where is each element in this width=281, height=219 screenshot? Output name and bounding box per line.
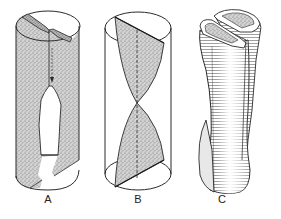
panel-b-cylinder (105, 12, 171, 190)
panel-label-c: C (212, 193, 232, 205)
panel-label-a: A (38, 193, 58, 205)
figure-three-cylinders: A B C (0, 0, 281, 219)
panel-label-b: B (128, 193, 148, 205)
panel-a-cylinder (16, 11, 80, 190)
panel-c-rolled-tube (199, 10, 261, 194)
